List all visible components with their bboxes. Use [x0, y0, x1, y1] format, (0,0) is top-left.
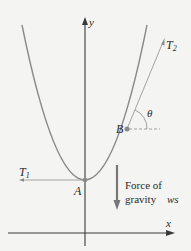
t2-label: T2: [166, 38, 177, 53]
gravity-arrowhead-icon: [114, 200, 121, 210]
theta-arc: [135, 110, 147, 129]
point-b: B: [116, 122, 130, 136]
theta-label: θ: [147, 107, 153, 119]
gravity-label-line1: Force of: [125, 179, 162, 191]
point-a-label: A: [73, 184, 82, 198]
x-axis-label: x: [165, 217, 171, 229]
t1-label: T1: [19, 165, 30, 180]
gravity-symbol: ws: [167, 193, 179, 205]
y-axis-label: y: [88, 16, 94, 28]
y-axis: y: [82, 16, 94, 246]
angle-theta: θ: [135, 107, 153, 129]
gravity-force: Force of gravity ws: [114, 165, 179, 210]
x-axis-arrowhead-icon: [166, 230, 175, 236]
t2-arrowhead-icon: [161, 38, 164, 46]
point-b-label: B: [116, 122, 124, 136]
x-axis: x: [8, 217, 175, 236]
catenary-force-diagram: y x T1 T2 θ A B Force of grav: [0, 0, 191, 251]
gravity-label-line2: gravity: [125, 193, 157, 205]
tension-t1: T1: [19, 165, 85, 182]
y-axis-arrowhead-icon: [82, 17, 88, 25]
